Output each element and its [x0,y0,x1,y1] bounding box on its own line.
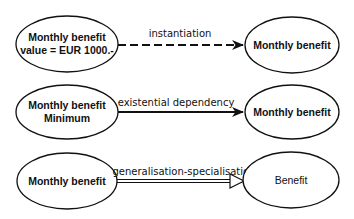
target-node-generalisation: Benefit [243,152,339,208]
relationship-diagram: Monthly benefit value = EUR 1000.- insta… [0,0,354,219]
node-label: Monthly benefit [253,106,331,118]
node-label-line-2: value = EUR 1000.- [20,44,114,56]
source-node-instance: Monthly benefit value = EUR 1000.- [16,16,118,72]
row-existential-dependency: Monthly benefit Minimum existential depe… [16,85,339,139]
edge-instantiation: instantiation [118,28,243,45]
node-label: Monthly benefit [253,39,331,51]
node-label-line-1: Monthly benefit [28,99,106,111]
node-label: Benefit [275,174,308,186]
node-label: Monthly benefit [28,175,106,187]
edge-existential-dependency: existential dependency [118,97,243,112]
target-node-type: Monthly benefit [245,17,339,73]
node-label-line-1: Monthly benefit [28,31,106,43]
edge-generalisation-specialisation: generalisation-specialisation [112,166,255,188]
edge-label: generalisation-specialisation [112,166,255,177]
node-label-line-2: Minimum [44,112,90,124]
row-generalisation-specialisation: Monthly benefit generalisation-specialis… [17,152,339,209]
row-instantiation: Monthly benefit value = EUR 1000.- insta… [16,16,339,73]
target-node-owner: Monthly benefit [245,85,339,139]
edge-label: instantiation [149,28,212,39]
source-node-specialisation: Monthly benefit [17,153,117,209]
source-node-dependent: Monthly benefit Minimum [16,85,118,139]
edge-label: existential dependency [118,97,235,108]
